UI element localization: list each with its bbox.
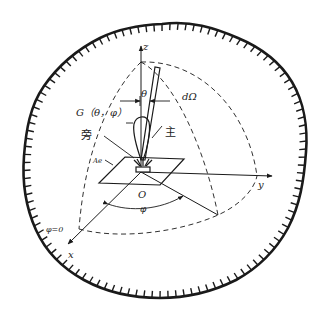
z-axis-label: z [142,41,149,52]
phi-zero-label: φ=0 [46,225,63,234]
side-lobe-label: 旁 [81,128,92,142]
origin-label: O [138,189,146,200]
phi-label: φ [140,204,147,214]
main-beam [141,67,160,160]
sphere-octant-arcs [79,62,257,234]
gain-function-label: G（θ，φ） [76,107,127,118]
y-axis-label: y [257,179,264,190]
solid-angle-label: dΩ [182,91,197,102]
coordinate-axes [68,46,272,244]
x-axis-label: x [68,249,74,260]
blackbody-enclosure [24,23,307,298]
antenna-pattern-diagram: z x y O θ φ φ=0 dΩ G（θ，φ） 旁 主 Ae [0,0,325,317]
leader-lines [104,123,162,165]
enclosure-hatch-ticks [24,23,307,298]
aperture-label: Ae [92,157,102,165]
y-axis [141,172,272,176]
theta-label: θ [141,88,147,99]
main-lobe-label: 主 [165,126,176,139]
antenna-feed-icon [134,158,152,172]
